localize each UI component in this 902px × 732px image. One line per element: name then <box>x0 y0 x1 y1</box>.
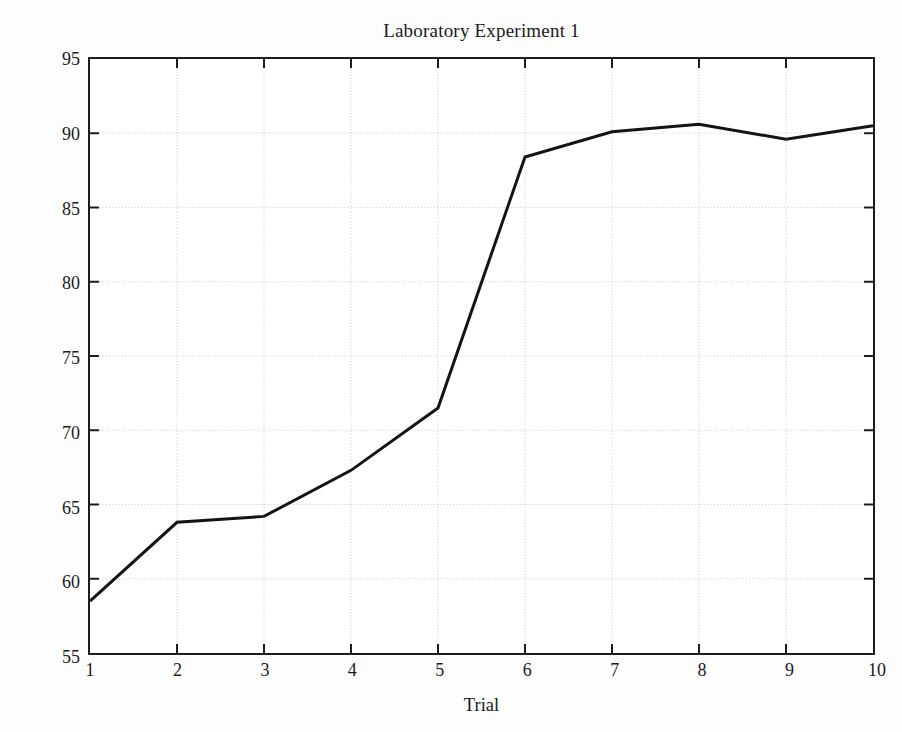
x-tick-label: 10 <box>868 653 886 681</box>
data-series-layer <box>90 59 873 653</box>
y-tick-label: 90 <box>62 123 90 144</box>
x-tick-label: 4 <box>348 653 357 681</box>
x-tick-label: 9 <box>785 653 794 681</box>
x-tick-label: 3 <box>260 653 269 681</box>
data-line-distance <box>90 124 873 601</box>
x-tick-label: 2 <box>173 653 182 681</box>
y-tick-label: 80 <box>62 273 90 294</box>
x-tick-label: 6 <box>523 653 532 681</box>
x-tick-label: 1 <box>86 653 95 681</box>
y-tick-label: 85 <box>62 198 90 219</box>
chart-figure: Laboratory Experiment 1 5560657075808590… <box>0 0 902 732</box>
chart-title: Laboratory Experiment 1 <box>88 20 875 42</box>
y-tick-label: 95 <box>62 49 90 70</box>
x-axis-label: Trial <box>88 695 875 716</box>
y-tick-label: 75 <box>62 348 90 369</box>
plot-area: 556065707580859095 12345678910 <box>88 57 875 655</box>
y-tick-label: 70 <box>62 422 90 443</box>
x-tick-label: 5 <box>435 653 444 681</box>
x-tick-label: 7 <box>610 653 619 681</box>
y-tick-label: 65 <box>62 497 90 518</box>
y-tick-label: 60 <box>62 572 90 593</box>
x-tick-label: 8 <box>698 653 707 681</box>
